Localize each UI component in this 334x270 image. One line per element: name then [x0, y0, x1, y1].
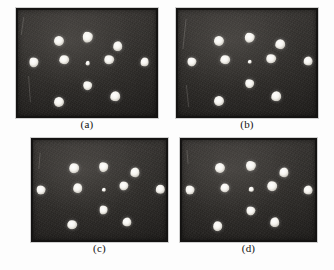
marker-dot [268, 182, 278, 192]
marker-dot [221, 183, 230, 192]
marker-dot [245, 79, 255, 89]
photo-frame-c [31, 138, 168, 242]
marker-dot [266, 54, 276, 64]
figure-panel-grid: (a)(b)(c)(d) [0, 0, 334, 270]
marker-dot [67, 220, 77, 230]
marker-dot [246, 161, 256, 171]
marker-dot [214, 96, 224, 106]
marker-dot [271, 91, 281, 101]
marker-dot [101, 188, 105, 192]
marker-dot [304, 57, 313, 66]
panel-c [31, 138, 168, 242]
marker-dot [54, 97, 64, 107]
panel-b [176, 8, 318, 118]
emulsion-scratch [28, 76, 31, 102]
marker-dot [140, 58, 149, 67]
marker-dot [220, 55, 230, 65]
marker-dot [85, 61, 90, 66]
marker-dot [37, 186, 46, 195]
photo-plate-a [16, 8, 158, 118]
panel-caption-c: (c) [31, 242, 168, 255]
marker-dot [245, 32, 255, 42]
photo-plate-c [31, 138, 168, 242]
marker-dot [83, 32, 93, 42]
panel-caption-a: (a) [16, 118, 158, 131]
panel-caption-b: (b) [176, 118, 318, 131]
emulsion-scratch [182, 19, 186, 49]
panel-caption-d: (d) [180, 242, 317, 255]
marker-dot [186, 186, 195, 195]
marker-dot [83, 81, 93, 91]
marker-dot [59, 55, 69, 65]
marker-dot [73, 183, 83, 193]
panel-d [180, 138, 317, 242]
marker-dot [247, 206, 256, 215]
emulsion-scratch [39, 153, 41, 169]
marker-dot [54, 36, 64, 46]
marker-dot [215, 163, 225, 173]
marker-dot [99, 206, 108, 215]
marker-dot [304, 186, 313, 195]
marker-dot [29, 58, 38, 67]
marker-dot [276, 40, 286, 50]
photo-plate-b [176, 8, 318, 118]
marker-dot [122, 217, 131, 226]
photo-plate-d [180, 138, 317, 242]
marker-dot [120, 181, 129, 190]
marker-dot [280, 168, 289, 177]
marker-dot [213, 222, 223, 232]
marker-dot [104, 55, 114, 65]
marker-dot [270, 217, 280, 227]
emulsion-scratch [186, 150, 188, 164]
marker-dot [249, 187, 253, 191]
marker-dot [99, 162, 109, 172]
marker-dot [131, 168, 140, 177]
marker-dot [248, 60, 253, 65]
marker-dot [214, 36, 224, 46]
marker-dot [111, 91, 121, 101]
marker-dot [69, 163, 79, 173]
panel-a [16, 8, 158, 118]
marker-dot [113, 41, 123, 51]
marker-dot [156, 185, 164, 193]
marker-dot [187, 57, 196, 66]
emulsion-scratch [185, 85, 188, 107]
emulsion-scratch [21, 17, 24, 35]
